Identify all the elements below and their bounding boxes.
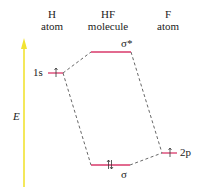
- f-atom-subtitle: atom: [148, 20, 188, 32]
- column-header-hf-molecule: HF molecule: [83, 8, 133, 32]
- connector-1s-to-sigma: [63, 73, 91, 165]
- h-1s-label: 1s: [33, 66, 43, 78]
- f-atom-title: F: [148, 8, 188, 20]
- sigma-star-label: σ*: [121, 37, 132, 49]
- column-header-f-atom: F atom: [148, 8, 188, 32]
- connector-sigma-star-to-2p: [131, 52, 162, 153]
- connector-sigma-to-2p: [130, 153, 162, 165]
- hf-molecule-title: HF: [83, 8, 133, 20]
- f-2p-label: 2p: [180, 146, 191, 158]
- h-atom-subtitle: atom: [32, 20, 72, 32]
- sigma-label: σ: [121, 168, 127, 180]
- hf-molecule-subtitle: molecule: [83, 20, 133, 32]
- energy-axis-arrow: [21, 38, 27, 187]
- column-header-h-atom: H atom: [32, 8, 72, 32]
- energy-axis-label: E: [13, 110, 20, 122]
- dashed-connectors: [63, 52, 162, 165]
- h-atom-title: H: [32, 8, 72, 20]
- connector-1s-to-sigma-star: [63, 52, 91, 73]
